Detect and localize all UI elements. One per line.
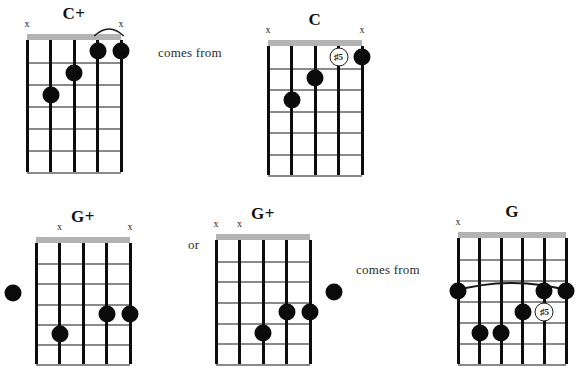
connector-text-or-middle: or (188, 237, 199, 253)
chord-diagram-chord-g-aug-2: G+xx (216, 234, 310, 364)
chord-diagram-chord-g: Gx♯5 (458, 232, 566, 364)
fret-line-6 (36, 364, 130, 366)
finger-dot-s5-f1 (354, 48, 371, 65)
mute-marker-string-1: x (456, 217, 461, 227)
finger-dot-s3-f2 (66, 65, 83, 82)
string-line-5 (120, 40, 123, 172)
finger-dot-s4-f4 (278, 304, 295, 321)
string-line-4 (96, 40, 99, 172)
connector-text-comes-from-top: comes from (158, 45, 222, 61)
string-line-4 (285, 240, 288, 364)
string-line-4 (105, 243, 108, 364)
string-line-3 (73, 40, 76, 172)
string-line-2 (238, 240, 241, 364)
muted-strings-row: xx (268, 25, 362, 38)
finger-dot-s4-f4 (514, 303, 531, 320)
string-line-3 (262, 240, 265, 364)
muted-strings-row: x (458, 217, 566, 230)
finger-dot-s5-f1 (113, 43, 130, 60)
finger-dot-s2-f5 (51, 325, 68, 342)
string-line-2 (58, 243, 61, 364)
string-line-1 (267, 46, 270, 175)
string-line-2 (290, 46, 293, 175)
mute-marker-string-5: x (128, 222, 133, 232)
chord-diagram-chord-g-aug-1: G+xx (36, 237, 130, 364)
fretboard-grid (27, 40, 121, 172)
finger-dot-s2-f3 (283, 91, 300, 108)
finger-dot-s1-f3 (450, 282, 467, 299)
string-line-5 (129, 243, 132, 364)
muted-strings-row: xx (216, 219, 310, 232)
mute-marker-string-5: x (360, 25, 365, 35)
fret-line-3 (458, 301, 566, 303)
string-line-3 (314, 46, 317, 175)
fret-line-4 (458, 322, 566, 324)
finger-dot-s3-f2 (307, 70, 324, 87)
fret-line-6 (216, 364, 310, 366)
fretboard-grid (268, 46, 362, 175)
fret-line-6 (27, 172, 121, 174)
finger-dot-s5-f3 (536, 282, 553, 299)
chord-diagram-chord-c-aug: C+xx (27, 34, 121, 172)
finger-dot-s3-f5 (255, 325, 272, 342)
string-line-1 (215, 240, 218, 364)
finger-dot-s2-f5 (471, 324, 488, 341)
finger-dot-s5-f4 (302, 304, 319, 321)
fret-line-5 (458, 343, 566, 345)
mute-marker-string-5: x (119, 19, 124, 29)
fret-line-1 (458, 259, 566, 261)
finger-dot-s4-f4 (98, 305, 115, 322)
chord-diagram-chord-c: Cxx♯5 (268, 40, 362, 175)
finger-dot-s3-f5 (493, 324, 510, 341)
string-line-4 (521, 238, 524, 364)
fret-line-6 (268, 175, 362, 177)
finger-dot-s0-f3 (4, 285, 21, 302)
string-line-5 (309, 240, 312, 364)
finger-dot-s4-f1 (89, 43, 106, 60)
fret-line-2 (458, 280, 566, 282)
fretboard-grid (36, 243, 130, 364)
degree-marker-s4-f1: ♯5 (329, 47, 348, 66)
string-line-1 (457, 238, 460, 364)
string-line-1 (35, 243, 38, 364)
finger-dot-s6-f3 (325, 283, 342, 300)
muted-strings-row: xx (27, 19, 121, 32)
muted-strings-row: xx (36, 222, 130, 235)
finger-dot-s6-f3 (558, 282, 575, 299)
mute-marker-string-1: x (214, 219, 219, 229)
string-line-2 (49, 40, 52, 172)
mute-marker-string-2: x (237, 219, 242, 229)
string-line-5 (361, 46, 364, 175)
string-line-5 (543, 238, 546, 364)
string-line-6 (565, 238, 568, 364)
degree-marker-s5-f4: ♯5 (535, 302, 554, 321)
finger-dot-s2-f3 (42, 87, 59, 104)
finger-dot-s5-f4 (122, 305, 139, 322)
mute-marker-string-2: x (57, 222, 62, 232)
chord-chart-canvas: comes fromorcomes fromC+xxCxx♯5G+xxG+xxG… (0, 0, 586, 369)
string-line-3 (500, 238, 503, 364)
string-line-1 (26, 40, 29, 172)
string-line-3 (82, 243, 85, 364)
fret-line-6 (458, 364, 566, 366)
mute-marker-string-1: x (266, 25, 271, 35)
fretboard-grid (458, 238, 566, 364)
string-line-2 (478, 238, 481, 364)
mute-marker-string-1: x (25, 19, 30, 29)
fretboard-grid (216, 240, 310, 364)
connector-text-comes-from-bottom: comes from (356, 262, 420, 278)
